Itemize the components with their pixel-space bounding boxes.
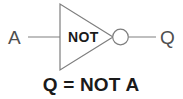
inversion-bubble-icon [113,29,129,45]
logic-diagram-canvas: A NOT Q Q = NOT A [0,0,183,99]
input-port-label: A [8,27,21,48]
gate-body-label: NOT [68,29,99,45]
output-port-label: Q [160,27,175,48]
boolean-expression-caption: Q = NOT A [43,74,140,95]
not-gate-figure: A NOT Q Q = NOT A [0,0,183,99]
